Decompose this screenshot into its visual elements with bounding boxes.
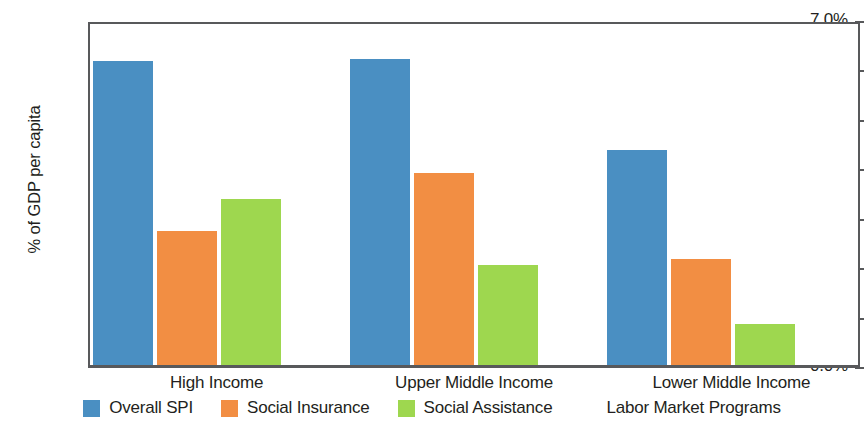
legend-label: Social Insurance	[247, 398, 369, 418]
bar	[542, 355, 602, 365]
legend-label: Overall SPI	[109, 398, 193, 418]
y-axis-title: % of GDP per capita	[25, 50, 44, 310]
x-axis-label: Lower Middle Income	[581, 373, 864, 393]
legend-item: Social Assistance	[398, 398, 553, 418]
legend-label: Social Assistance	[424, 398, 553, 418]
legend-swatch	[221, 400, 238, 417]
bar	[735, 324, 795, 365]
legend-label: Labor Market Programs	[606, 398, 780, 418]
bar	[93, 61, 153, 365]
bar-group	[605, 24, 862, 365]
x-axis-label: High Income	[67, 373, 367, 393]
bar	[799, 301, 859, 365]
bar-group	[90, 24, 347, 365]
bar	[414, 173, 474, 365]
bar	[478, 265, 538, 365]
bar	[350, 59, 410, 365]
plot-area	[88, 22, 860, 368]
bar	[607, 150, 667, 365]
grouped-bar-chart: % of GDP per capita 7.0%6.0%5.0%4.0%3.0%…	[0, 0, 864, 425]
legend-item: Social Insurance	[221, 398, 369, 418]
legend-swatch	[83, 400, 100, 417]
bar-group	[347, 24, 604, 365]
x-axis-label: Upper Middle Income	[324, 373, 624, 393]
bar	[671, 259, 731, 365]
bar	[221, 199, 281, 365]
chart-legend: Overall SPISocial InsuranceSocial Assist…	[0, 398, 864, 418]
legend-swatch	[398, 400, 415, 417]
legend-item: Overall SPI	[83, 398, 193, 418]
legend-item: Labor Market Programs	[580, 398, 780, 418]
bar	[157, 231, 217, 365]
legend-swatch	[580, 400, 597, 417]
